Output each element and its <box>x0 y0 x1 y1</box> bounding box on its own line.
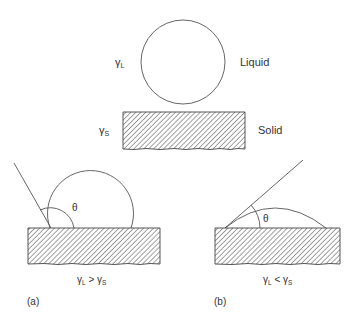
solid-block-b <box>215 228 340 265</box>
panel-a: θ γL > γS (a) <box>14 163 160 307</box>
droplet-a <box>48 171 134 228</box>
liquid-label: Liquid <box>240 56 269 68</box>
solid-block-a <box>28 228 160 265</box>
relation-b: γL < γS <box>263 274 293 286</box>
angle-arc-b <box>251 205 260 228</box>
relation-a: γL > γS <box>77 274 107 286</box>
liquid-droplet <box>141 20 225 104</box>
theta-label-a: θ <box>72 202 78 213</box>
top-panel: γL Liquid γS Solid <box>99 20 282 150</box>
gamma-l-label: γL <box>115 56 125 69</box>
solid-label: Solid <box>258 124 282 136</box>
panel-b: θ γL < γS (b) <box>214 160 340 307</box>
caption-b: (b) <box>214 296 226 307</box>
contact-angle-diagram: γL Liquid γS Solid θ γL > γS (a) θ γL < … <box>0 0 353 319</box>
gamma-s-label: γS <box>99 124 110 137</box>
solid-block-top <box>123 112 245 150</box>
tangent-line-a <box>14 163 51 228</box>
caption-a: (a) <box>27 296 39 307</box>
theta-label-b: θ <box>263 213 269 224</box>
droplet-b <box>225 208 326 228</box>
